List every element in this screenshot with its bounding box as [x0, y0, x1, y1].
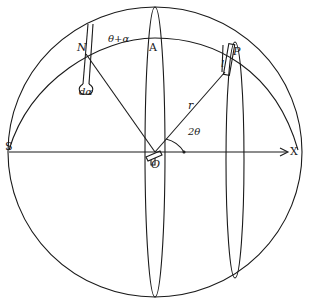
label-two-theta: 2θ — [188, 127, 200, 137]
right-meridian-ellipse — [226, 42, 244, 278]
label-p: P — [233, 46, 240, 57]
label-a: A — [149, 42, 157, 53]
label-d-alpha: dα — [79, 87, 92, 97]
sphere-diagram: N θ+α A dα l P r 2θ S O X — [0, 0, 312, 304]
label-theta-plus-alpha: θ+α — [108, 34, 129, 44]
line-o-to-p — [155, 72, 225, 152]
angle-arc — [166, 139, 184, 152]
label-o: O — [151, 159, 160, 170]
n-strip-left — [83, 24, 88, 84]
line-o-to-n — [86, 54, 155, 152]
label-s: S — [5, 141, 13, 152]
label-n: N — [77, 42, 87, 53]
label-x: X — [290, 146, 298, 157]
label-l: l — [221, 59, 224, 69]
angle-point — [183, 151, 185, 153]
great-circle-arc — [9, 38, 298, 150]
label-r: r — [188, 100, 193, 111]
